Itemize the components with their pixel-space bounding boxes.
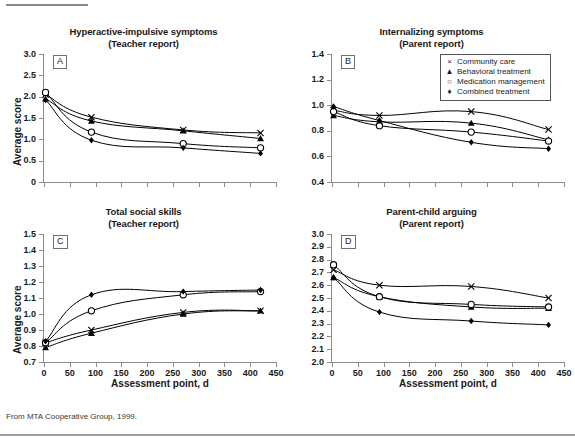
x-tick-mark [384,363,385,367]
y-tick-label: 1.4 [294,50,324,59]
legend-item: ×Community care [445,57,545,67]
panel-d-parent-child-arguing: Parent-child arguing (Parent report) 2.0… [288,206,575,416]
y-tick-mark [39,161,43,162]
circle-marker [545,304,551,310]
bottom-divider [0,434,575,436]
x-axis-line [43,362,277,363]
y-tick-label: 2.1 [294,345,324,354]
x-tick-mark [199,363,200,367]
circle-marker [257,145,263,151]
x-tick-mark [384,183,385,187]
circle-marker [330,262,336,268]
legend: ×Community care▲Behavioral treatment○Med… [440,54,551,101]
x-tick-mark [435,183,436,187]
y-tick-label: 2.8 [294,255,324,264]
y-tick-mark [39,314,43,315]
circle-marker [468,301,474,307]
panel-b-letter: B [341,55,355,69]
y-tick-mark [39,330,43,331]
y-tick-label: 0.7 [6,358,36,367]
y-tick-mark [327,311,331,312]
y-tick-mark [327,182,331,183]
y-tick-mark [327,234,331,235]
series-layer [44,234,276,362]
series-line [46,92,261,147]
diamond-marker [546,322,551,328]
y-tick-mark [327,349,331,350]
x-tick-mark [44,183,45,187]
x-tick-mark [147,183,148,187]
diamond-marker [89,292,94,298]
y-tick-label: 2.9 [294,242,324,251]
x-axis-line [331,362,565,363]
top-divider [6,4,88,6]
x-tick-mark [121,363,122,367]
y-tick-mark [327,336,331,337]
y-tick-label: 1.2 [6,278,36,287]
panel-b-title-sub: (Parent report) [288,38,575,50]
y-tick-mark [327,80,331,81]
panel-b-internalizing: Internalizing symptoms (Parent report) 0… [288,26,575,204]
legend-item-label: Behavioral treatment [457,67,531,77]
series-line [334,110,549,129]
x-tick-mark [487,183,488,187]
y-tick-label: 2.6 [294,281,324,290]
panel-a-title-sub: (Teacher report) [0,38,287,50]
diamond-marker: ♦ [445,87,454,97]
x-tick-label: 450 [549,369,575,378]
y-tick-mark [327,298,331,299]
y-tick-mark [39,250,43,251]
y-tick-label: 0.9 [6,326,36,335]
series-line [46,310,261,343]
y-tick-label: 0.8 [294,126,324,135]
y-tick-label: 0.4 [294,178,324,187]
y-tick-label: 0 [6,178,36,187]
y-tick-label: 2.3 [294,319,324,328]
panel-d-plot-area: 2.02.12.22.32.42.52.62.72.82.93.00501001… [332,234,564,362]
y-tick-label: 1.5 [6,230,36,239]
y-tick-mark [327,362,331,363]
panel-c-total-social-skills: Total social skills (Teacher report) Ave… [0,206,287,416]
diamond-marker [89,137,94,143]
panel-d-xlabel: Assessment point, d [332,378,564,389]
y-tick-label: 1.5 [6,114,36,123]
y-tick-mark [39,234,43,235]
x-tick-mark [564,363,565,367]
source-caption: From MTA Cooperative Group, 1999. [6,412,137,422]
x-tick-mark [512,363,513,367]
x-tick-mark [461,183,462,187]
y-tick-mark [39,266,43,267]
x-tick-mark [435,363,436,367]
y-tick-mark [327,247,331,248]
x-tick-mark [358,363,359,367]
y-tick-mark [327,105,331,106]
mta-outcomes-figure: Hyperactive-impulsive symptoms (Teacher … [0,0,575,438]
x-tick-mark [96,363,97,367]
y-tick-label: 1.4 [6,246,36,255]
y-tick-label: 1.3 [6,262,36,271]
x-tick-mark [173,363,174,367]
y-tick-label: 3.0 [294,230,324,239]
y-tick-mark [39,139,43,140]
legend-item-label: Medication management [457,77,545,87]
y-tick-label: 1.1 [6,294,36,303]
panel-a-letter: A [53,55,67,69]
circle-marker [42,89,48,95]
y-tick-mark [327,285,331,286]
y-tick-label: 2.5 [294,294,324,303]
y-tick-label: 2.7 [294,268,324,277]
panel-c-title-sub: (Teacher report) [0,218,287,230]
legend-item: ▲Behavioral treatment [445,67,545,77]
y-tick-label: 2.0 [6,92,36,101]
x-tick-mark [224,363,225,367]
y-tick-mark [39,362,43,363]
panel-a-title: Hyperactive-impulsive symptoms (Teacher … [0,26,287,49]
legend-item: ♦Combined treatment [445,87,545,97]
panel-c-xlabel: Assessment point, d [44,378,276,389]
y-tick-label: 3.0 [6,50,36,59]
circle-marker [376,294,382,300]
cross-marker: × [445,57,454,67]
series-layer [332,234,564,362]
panel-a-hyperactive-impulsive: Hyperactive-impulsive symptoms (Teacher … [0,26,287,204]
x-tick-mark [538,363,539,367]
